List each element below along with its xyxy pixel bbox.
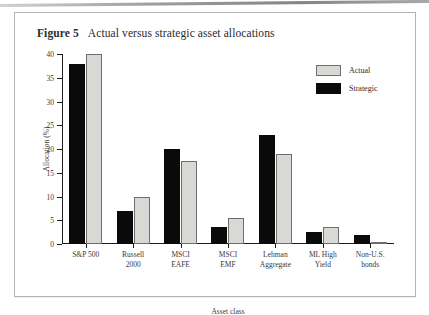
bar-actual (371, 242, 387, 244)
x-axis-category-label-line: 2000 (109, 260, 156, 270)
y-axis-tick-label: 10 (47, 192, 55, 201)
x-axis-category-label-line: MSCI (204, 250, 251, 260)
bar-group: LehmanAggregate (252, 54, 299, 244)
figure-caption: Figure 5Actual versus strategic asset al… (37, 27, 275, 39)
x-axis-label: Asset class (62, 307, 394, 315)
bar-strategic (211, 227, 227, 244)
bar-group: ML HighYield (299, 54, 346, 244)
x-axis-category-label-line: EAFE (157, 260, 204, 270)
bar-actual (86, 54, 102, 244)
x-axis-category-label: ML HighYield (299, 250, 346, 269)
bar-actual (134, 197, 150, 245)
x-axis-tick (275, 244, 276, 248)
x-axis-category-label: Russell2000 (109, 250, 156, 269)
bar-group: Non-U.S.bonds (347, 54, 394, 244)
y-axis-label: Allocation (%) (42, 127, 51, 172)
figure-title-text: Actual versus strategic asset allocation… (88, 27, 275, 39)
x-axis-category-label-line: bonds (347, 260, 394, 270)
y-axis-tick-label: 30 (47, 97, 55, 106)
bar-actual (276, 154, 292, 244)
x-axis-tick (323, 244, 324, 248)
x-axis-category-label-line: MSCI (157, 250, 204, 260)
scan-artifact-line (0, 0, 429, 7)
bar-strategic (306, 232, 322, 244)
x-axis-category-label-line: EMF (204, 260, 251, 270)
bar-groups: S&P 500Russell2000MSCIEAFEMSCIEMFLehmanA… (62, 54, 394, 244)
chart-plot-area: 0510152025303540 Allocation (%) S&P 500R… (62, 54, 394, 244)
x-axis-tick (133, 244, 134, 248)
bar-strategic (259, 135, 275, 244)
x-axis-category-label-line: Non-U.S. (347, 250, 394, 260)
bar-strategic (69, 64, 85, 245)
bar-actual (181, 161, 197, 244)
bar-group: S&P 500 (62, 54, 109, 244)
bar-strategic (164, 149, 180, 244)
x-axis-tick (228, 244, 229, 248)
bar-actual (228, 218, 244, 244)
x-axis-category-label: Non-U.S.bonds (347, 250, 394, 269)
y-axis-tick-label: 35 (47, 73, 55, 82)
x-axis-category-label-line: Yield (299, 260, 346, 270)
x-axis-tick (370, 244, 371, 248)
y-axis-tick-label: 40 (47, 50, 55, 59)
x-axis-category-label-line: Aggregate (252, 260, 299, 270)
y-axis-tick-label: 5 (50, 216, 54, 225)
x-axis-category-label-line: Russell (109, 250, 156, 260)
x-axis-category-label-line: S&P 500 (62, 250, 109, 260)
figure-number: Figure 5 (37, 27, 79, 39)
bar-actual (323, 227, 339, 244)
bar-group: MSCIEAFE (157, 54, 204, 244)
x-axis-category-label: LehmanAggregate (252, 250, 299, 269)
x-axis-category-label: S&P 500 (62, 250, 109, 260)
bar-group: Russell2000 (109, 54, 156, 244)
y-axis-tick (57, 244, 62, 245)
x-axis-category-label: MSCIEAFE (157, 250, 204, 269)
x-axis-tick (86, 244, 87, 248)
x-axis-category-label-line: Lehman (252, 250, 299, 260)
bar-strategic (354, 235, 370, 245)
x-axis-category-label-line: ML High (299, 250, 346, 260)
x-axis-category-label: MSCIEMF (204, 250, 251, 269)
y-axis-tick-label: 0 (50, 240, 54, 249)
x-axis-tick (181, 244, 182, 248)
bar-strategic (117, 211, 133, 244)
figure-frame: Figure 5Actual versus strategic asset al… (14, 12, 416, 297)
bar-group: MSCIEMF (204, 54, 251, 244)
